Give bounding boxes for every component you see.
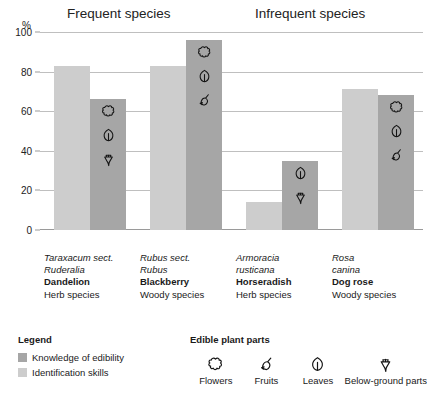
y-tick-label-20: 20 [2, 185, 32, 196]
edible-part-label: Flowers [199, 375, 232, 386]
category-latin-line2: canina [332, 264, 427, 276]
category-habit: Woody species [140, 289, 235, 301]
flower-icon [196, 44, 213, 61]
fruit-icon [196, 92, 213, 109]
edible-part-label: Below-ground parts [345, 375, 427, 386]
y-tick-label-0: 0 [2, 225, 32, 236]
leaf-icon [100, 127, 117, 144]
bar-edible-part-icons [378, 99, 414, 164]
edible-part-leaves[interactable]: Leaves [291, 352, 344, 386]
category-label-blackberry: Rubus sect. Rubus Blackberry Woody speci… [140, 252, 235, 301]
legend-item-knowledge-of-edibility[interactable]: Knowledge of edibility [18, 352, 188, 363]
category-common-name: Blackberry [140, 276, 235, 288]
category-latin-line1: Rosa [332, 252, 427, 264]
bar-knowledge-of-edibility-horseradish[interactable] [282, 161, 318, 230]
chart-plot-area: % 100 80 60 40 20 0 [0, 20, 427, 250]
legend-edible-plant-parts: Edible plant parts FlowersFruitsLeavesBe… [190, 334, 427, 386]
bar-knowledge-of-edibility-dandelion[interactable] [90, 99, 126, 230]
edible-part-label: Fruits [255, 375, 279, 386]
category-common-name: Dog rose [332, 276, 427, 288]
bar-group-blackberry [150, 32, 222, 230]
group-header-frequent: Frequent species [67, 6, 171, 21]
root-icon [292, 189, 309, 206]
category-label-dandelion: Taraxacum sect. Ruderalia Dandelion Herb… [44, 252, 139, 301]
bar-group-dog-rose [342, 32, 414, 230]
category-habit: Herb species [44, 289, 139, 301]
legend-label: Identification skills [32, 367, 109, 378]
legend-item-identification-skills[interactable]: Identification skills [18, 367, 188, 378]
flower-icon [100, 103, 117, 120]
edible-part-fruits[interactable]: Fruits [242, 352, 292, 386]
leaf-icon [308, 352, 327, 374]
category-label-dog-rose: Rosa canina Dog rose Woody species [332, 252, 427, 301]
leaf-icon [388, 123, 405, 140]
edible-part-flowers[interactable]: Flowers [190, 352, 242, 386]
y-tick-label-60: 60 [2, 106, 32, 117]
category-latin-line1: Armoracia [236, 252, 331, 264]
bar-edible-part-icons [282, 165, 318, 206]
flower-icon [206, 352, 225, 374]
legend-title: Legend [18, 334, 188, 345]
y-tick-label-40: 40 [2, 145, 32, 156]
fruit-icon [388, 147, 405, 164]
bar-group-dandelion [54, 32, 126, 230]
root-icon [376, 352, 395, 374]
fruit-icon [257, 352, 276, 374]
root-icon [100, 151, 117, 168]
legend-label: Knowledge of edibility [32, 352, 124, 363]
y-tick-label-80: 80 [2, 66, 32, 77]
bar-edible-part-icons [186, 44, 222, 109]
category-latin-line2: rusticana [236, 264, 331, 276]
legend-title: Edible plant parts [190, 334, 427, 345]
leaf-icon [292, 165, 309, 182]
x-axis-category-labels: Taraxacum sect. Ruderalia Dandelion Herb… [40, 252, 423, 312]
category-common-name: Dandelion [44, 276, 139, 288]
bar-knowledge-of-edibility-blackberry[interactable] [186, 40, 222, 230]
category-latin-line2: Rubus [140, 264, 235, 276]
legend-swatch-dark [18, 353, 27, 362]
edible-part-label: Leaves [303, 375, 334, 386]
category-habit: Herb species [236, 289, 331, 301]
category-latin-line1: Taraxacum sect. [44, 252, 139, 264]
edible-parts-row: FlowersFruitsLeavesBelow-ground parts [190, 352, 427, 386]
category-common-name: Horseradish [236, 276, 331, 288]
bar-identification-skills-blackberry[interactable] [150, 66, 186, 230]
edible-part-below-ground-parts[interactable]: Below-ground parts [345, 352, 427, 386]
legend-series: Legend Knowledge of edibility Identifica… [18, 334, 188, 382]
group-header-infrequent: Infrequent species [255, 6, 365, 21]
bar-edible-part-icons [90, 103, 126, 168]
leaf-icon [196, 68, 213, 85]
legend-swatch-light [18, 368, 27, 377]
bar-identification-skills-dandelion[interactable] [54, 66, 90, 230]
y-tick-label-100: 100 [2, 27, 32, 38]
y-axis: 100 80 60 40 20 0 [0, 32, 40, 230]
bar-knowledge-of-edibility-dog-rose[interactable] [378, 95, 414, 230]
category-latin-line1: Rubus sect. [140, 252, 235, 264]
bar-identification-skills-horseradish[interactable] [246, 202, 282, 230]
grid-and-bars [40, 32, 423, 230]
category-habit: Woody species [332, 289, 427, 301]
flower-icon [388, 99, 405, 116]
bar-group-horseradish [246, 32, 318, 230]
category-latin-line2: Ruderalia [44, 264, 139, 276]
bar-identification-skills-dog-rose[interactable] [342, 89, 378, 230]
category-label-horseradish: Armoracia rusticana Horseradish Herb spe… [236, 252, 331, 301]
